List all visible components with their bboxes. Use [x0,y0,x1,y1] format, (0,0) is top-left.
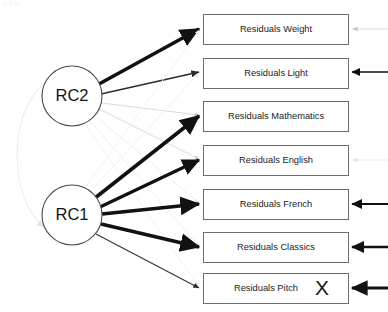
indicator-node-english[interactable]: Residuals English [204,146,349,176]
indicator-label: Residuals Pitch [234,283,298,293]
factor-label: RC1 [55,205,88,223]
factor-node-rc1[interactable]: RC1 [42,185,102,245]
edge-rc1-french [102,204,199,214]
factor-covariance-arc [17,84,44,227]
indicator-boxes: Residuals Weight Residuals Light Residua… [204,15,349,304]
x-glyph-icon: X [315,276,329,299]
factor-label: RC2 [55,86,88,104]
edge-rc2-english [99,109,199,159]
indicator-label: Residuals Classics [237,242,315,252]
indicator-label: Residuals English [239,155,313,165]
indicator-label: Residuals French [240,199,312,209]
edge-rc1-weight [85,30,199,188]
indicator-node-weight[interactable]: Residuals Weight [204,15,349,45]
indicator-node-pitch[interactable]: Residuals Pitch X [204,274,349,304]
indicator-node-classics[interactable]: Residuals Classics [204,233,349,263]
loading-edges-rc1 [85,30,199,288]
loading-edges-rc2 [85,29,199,287]
edge-rc1-classics [101,224,199,247]
residual-arrows [352,29,388,288]
indicator-node-french[interactable]: Residuals French [204,190,349,220]
indicator-label: Residuals Light [244,68,308,78]
factor-nodes: RC2 RC1 [42,66,102,245]
indicator-node-light[interactable]: Residuals Light [204,59,349,89]
edge-rc2-classics [90,121,199,246]
indicator-label: Residuals Mathematics [228,111,324,121]
diagram-canvas: Residuals Weight Residuals Light Residua… [0,0,388,312]
edge-rc2-mathematics [101,103,199,115]
factor-node-rc2[interactable]: RC2 [42,66,102,126]
indicator-node-mathematics[interactable]: Residuals Mathematics [204,102,349,132]
indicator-label: Residuals Weight [240,24,313,34]
path-diagram: SEM [0,0,388,312]
edge-rc1-light [90,73,199,192]
